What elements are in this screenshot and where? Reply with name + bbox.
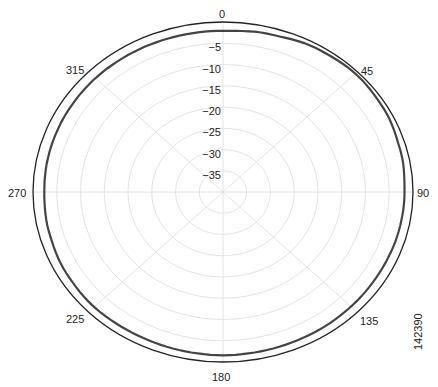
- grid-spoke: [89, 192, 223, 312]
- angle-label-225: 225: [66, 313, 84, 325]
- radial-label: −5: [191, 41, 221, 53]
- radial-label: −25: [191, 126, 221, 138]
- grid-spoke: [223, 192, 357, 312]
- angle-label-0: 0: [219, 8, 225, 20]
- radial-label: −30: [191, 148, 221, 160]
- radial-label: −35: [191, 169, 221, 181]
- grid-spoke: [223, 72, 357, 192]
- angle-label-135: 135: [360, 315, 378, 327]
- angle-label-315: 315: [66, 64, 84, 76]
- figure-id: 142390: [412, 313, 424, 350]
- angle-label-45: 45: [361, 65, 373, 77]
- angle-label-180: 180: [212, 371, 230, 383]
- radial-label: −10: [191, 63, 221, 75]
- polar-plot: [0, 0, 438, 387]
- angle-label-270: 270: [8, 187, 26, 199]
- radial-label: −15: [191, 84, 221, 96]
- angle-label-90: 90: [417, 187, 429, 199]
- radial-label: −20: [191, 105, 221, 117]
